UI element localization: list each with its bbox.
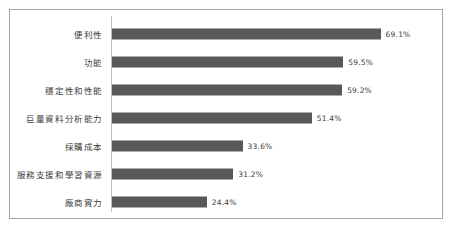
bar-row: 採購成本 33.6% <box>10 132 442 160</box>
bar-fill[interactable] <box>112 197 207 208</box>
bar-category-label: 穩定性和性能 <box>45 84 103 96</box>
bar-row: 巨量資料分析能力 51.4% <box>10 104 442 132</box>
bar-track <box>112 197 207 208</box>
bar-category-label: 廠商實力 <box>65 196 103 208</box>
bar-row: 服務支援和學習資源 31.2% <box>10 160 442 188</box>
bar-fill[interactable] <box>112 169 233 180</box>
bar-row: 便利性 69.1% <box>10 20 442 48</box>
bar-track <box>112 169 233 180</box>
bar-row: 廠商實力 24.4% <box>10 188 442 216</box>
bar-category-label: 服務支援和學習資源 <box>17 168 103 180</box>
plot-area: 便利性 69.1% 功能 59.5% 穩定性和性能 59.2% 巨量資料分析能力 <box>10 10 442 218</box>
bar-category-label: 採購成本 <box>65 140 103 152</box>
bar-value-label: 33.6% <box>248 142 273 151</box>
bar-value-label: 24.4% <box>212 198 237 207</box>
bar-value-label: 51.4% <box>317 114 342 123</box>
bar-value-label: 69.1% <box>386 30 411 39</box>
bar-category-label: 便利性 <box>74 28 103 40</box>
bar-track <box>112 29 381 40</box>
bar-value-label: 59.2% <box>347 86 372 95</box>
bar-fill[interactable] <box>112 85 342 96</box>
bar-track <box>112 113 312 124</box>
bar-row: 功能 59.5% <box>10 48 442 76</box>
bar-row: 穩定性和性能 59.2% <box>10 76 442 104</box>
bar-track <box>112 141 243 152</box>
bar-fill[interactable] <box>112 57 343 68</box>
bar-fill[interactable] <box>112 29 381 40</box>
bar-track <box>112 57 343 68</box>
bar-fill[interactable] <box>112 141 243 152</box>
bar-category-label: 功能 <box>84 56 103 68</box>
chart-frame: 便利性 69.1% 功能 59.5% 穩定性和性能 59.2% 巨量資料分析能力 <box>9 9 443 219</box>
bar-value-label: 31.2% <box>238 170 263 179</box>
bar-category-label: 巨量資料分析能力 <box>26 112 103 124</box>
bar-fill[interactable] <box>112 113 312 124</box>
bar-value-label: 59.5% <box>348 58 373 67</box>
bar-track <box>112 85 342 96</box>
